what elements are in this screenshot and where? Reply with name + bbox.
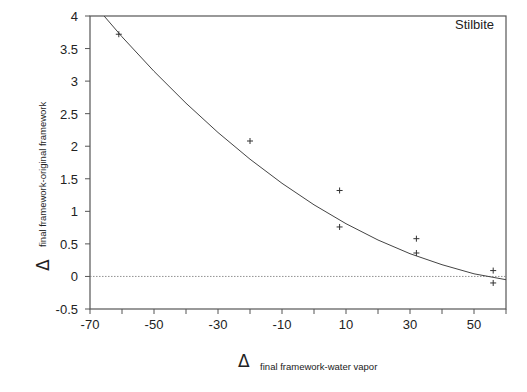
y-tick-label: 0	[71, 269, 78, 284]
y-axis-delta-symbol: Δ	[33, 259, 53, 271]
y-tick-label: 3.5	[60, 42, 78, 57]
x-axis-label-text: final framework-water vapor	[260, 361, 377, 372]
x-tick-label: 50	[467, 317, 481, 332]
x-tick-label: -10	[273, 317, 292, 332]
y-tick-label: 2.5	[60, 107, 78, 122]
data-point-plus-marker	[490, 280, 496, 286]
data-point-plus-marker	[116, 31, 122, 37]
y-tick-label: 1.5	[60, 172, 78, 187]
data-point-plus-marker	[490, 268, 496, 274]
chart-annotation: Stilbite	[455, 17, 494, 32]
x-tick-label: -70	[81, 317, 100, 332]
chart: -0.500.511.522.533.54-70-50-30-10103050	[0, 0, 527, 392]
data-point-plus-marker	[337, 187, 343, 193]
chart-annotation-wrap: Stilbite	[455, 17, 494, 32]
y-tick-label: 3	[71, 74, 78, 89]
y-tick-label: 0.5	[60, 237, 78, 252]
y-tick-label: 4	[71, 9, 78, 24]
x-tick-label: 10	[339, 317, 353, 332]
x-axis-label: Δ final framework-water vapor	[238, 351, 377, 371]
y-tick-label: 1	[71, 204, 78, 219]
x-axis-delta-symbol: Δ	[238, 351, 250, 371]
y-tick-label: -0.5	[56, 302, 78, 317]
data-point-plus-marker	[247, 138, 253, 144]
x-tick-label: -30	[209, 317, 228, 332]
data-point-plus-marker	[337, 224, 343, 230]
x-tick-label: 30	[403, 317, 417, 332]
data-point-plus-marker	[413, 236, 419, 242]
y-axis-label: Δ final framework-original framework	[33, 41, 53, 271]
fit-curve	[104, 16, 506, 280]
x-tick-label: -50	[145, 317, 164, 332]
y-axis-label-text: final framework-original framework	[37, 102, 48, 247]
y-tick-label: 2	[71, 139, 78, 154]
